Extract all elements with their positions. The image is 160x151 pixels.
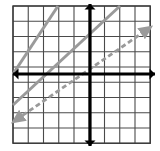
axes [13, 4, 155, 146]
series-solid-line-upper-left [13, 6, 58, 74]
plotted-lines [13, 6, 148, 120]
graph-figure [0, 0, 160, 151]
y-axis-arrow-up [85, 4, 96, 10]
coordinate-plane-svg [0, 0, 160, 151]
x-axis-arrow-right [150, 69, 156, 80]
